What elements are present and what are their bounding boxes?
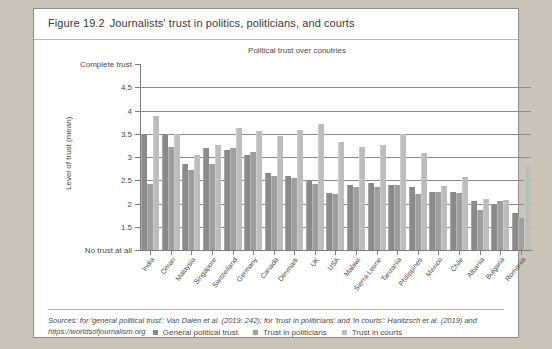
bar-group	[161, 64, 182, 250]
bar	[174, 134, 180, 250]
bar	[153, 116, 159, 250]
bar	[194, 155, 200, 250]
sources-note: Sources: for 'general political trust': …	[48, 315, 504, 337]
bar	[236, 128, 242, 250]
x-axis-tick	[408, 251, 429, 255]
bar-group	[428, 64, 449, 250]
bar	[338, 142, 344, 250]
x-axis-label: Chile	[449, 256, 464, 273]
figure-panel: Figure 19.2Journalists' trust in politic…	[33, 8, 519, 338]
chart-title: Political trust over conutries	[34, 46, 520, 55]
bar-group	[387, 64, 408, 250]
bar-group	[243, 64, 264, 250]
bar	[359, 147, 365, 250]
y-axis-tick-label: Complete trust	[80, 60, 132, 69]
bar-group	[140, 64, 161, 250]
y-axis-tick-label: 4	[128, 106, 132, 115]
x-axis-tick	[140, 251, 161, 255]
x-axis-label-cell: Chile	[449, 256, 470, 296]
chart: Political trust over conutries Level of …	[34, 40, 520, 295]
bar	[462, 177, 468, 250]
figure-number: Figure 19.2	[48, 17, 105, 29]
x-axis-tick	[284, 251, 305, 255]
x-axis-tick	[346, 251, 367, 255]
y-axis-title: Level of trust (mean)	[64, 117, 73, 190]
bar-group	[263, 64, 284, 250]
sources-divider	[48, 309, 504, 310]
bar-group	[284, 64, 305, 250]
x-axis-tick	[510, 251, 531, 255]
y-axis-tick-label: 4.5	[121, 83, 132, 92]
x-axis-label-cell: Romania	[510, 256, 531, 296]
y-axis-tick-label: 1.5	[121, 222, 132, 231]
bar-group	[325, 64, 346, 250]
x-axis-tick	[428, 251, 449, 255]
x-axis-label: Malawi	[343, 256, 362, 277]
x-axis-tick	[222, 251, 243, 255]
bar-group	[449, 64, 470, 250]
bar-groups	[140, 64, 531, 250]
x-axis-label: USA	[327, 256, 341, 272]
y-axis-tick-label: 2.5	[121, 176, 132, 185]
bar	[400, 134, 406, 250]
x-axis-label: Oman	[159, 256, 176, 275]
bar-group	[346, 64, 367, 250]
plot-area: Complete trust4.543.532.521.5No trust at…	[140, 64, 531, 250]
bar	[215, 145, 221, 250]
x-axis-tick	[243, 251, 264, 255]
bar	[421, 153, 427, 250]
bar	[380, 145, 386, 250]
x-axis-label-cell: Mexico	[428, 256, 449, 296]
x-axis-label-cell: Denmark	[284, 256, 305, 296]
bar	[318, 124, 324, 250]
x-axis-tick	[449, 251, 470, 255]
bar	[483, 199, 489, 250]
bar-group	[222, 64, 243, 250]
x-axis-tick	[366, 251, 387, 255]
y-axis-tick-label: 3	[128, 153, 132, 162]
bar	[277, 136, 283, 250]
x-axis-label-cell: Philippines	[408, 256, 429, 296]
x-axis-labels: IndiaOmanMalaysiaSingaporeSwitzerlandGer…	[140, 256, 531, 296]
y-axis-tick-label: 3.5	[121, 129, 132, 138]
figure-title: Figure 19.2Journalists' trust in politic…	[48, 17, 355, 29]
bar-group	[305, 64, 326, 250]
x-axis-tick	[490, 251, 511, 255]
x-axis-label-cell: USA	[325, 256, 346, 296]
bar-group	[510, 64, 531, 250]
bar-group	[469, 64, 490, 250]
bar	[256, 131, 262, 250]
x-axis-tick	[161, 251, 182, 255]
bar	[297, 130, 303, 250]
x-axis-tick	[325, 251, 346, 255]
bar-group	[202, 64, 223, 250]
bar	[524, 166, 530, 250]
x-axis-tick	[305, 251, 326, 255]
x-axis-tick	[387, 251, 408, 255]
x-axis-tick	[181, 251, 202, 255]
bar-group	[408, 64, 429, 250]
bar-group	[366, 64, 387, 250]
bar-group	[490, 64, 511, 250]
x-axis-ticks	[140, 251, 531, 255]
x-axis-tick	[469, 251, 490, 255]
y-axis-tick-label: 2	[128, 199, 132, 208]
bar	[503, 200, 509, 250]
x-axis-label: India	[141, 256, 156, 272]
figure-caption: Journalists' trust in politics, politici…	[110, 17, 355, 29]
bar	[441, 186, 447, 250]
x-axis-label: UK	[309, 256, 321, 268]
x-axis-label-cell: India	[140, 256, 161, 296]
x-axis-tick	[202, 251, 223, 255]
bar-group	[181, 64, 202, 250]
x-axis-label-cell: UK	[305, 256, 326, 296]
x-axis-label: Mexico	[425, 256, 444, 278]
y-axis-tick-label: No trust at all	[85, 246, 132, 255]
